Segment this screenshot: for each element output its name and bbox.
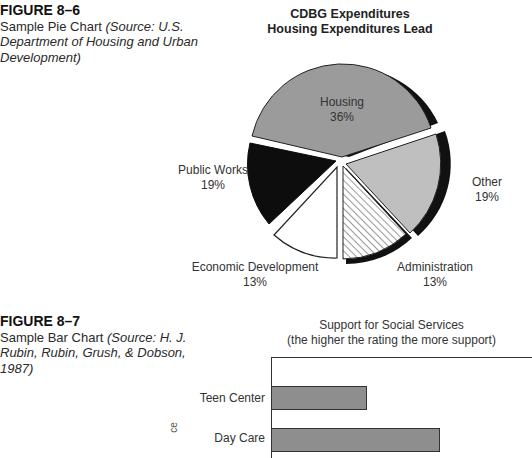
pie-label-other: Other 19% bbox=[462, 175, 512, 205]
bar-day-care bbox=[271, 428, 440, 452]
bar-label-teen-center: Teen Center bbox=[145, 391, 265, 405]
slice-name: Economic Development bbox=[180, 260, 330, 275]
pie-label-administration: Administration 13% bbox=[380, 260, 490, 290]
pie-label-public-works: Public Works 19% bbox=[168, 163, 258, 193]
slice-percent: 19% bbox=[462, 190, 512, 205]
bar-y-axis-label: ce bbox=[168, 422, 179, 433]
bar-label-day-care: Day Care bbox=[145, 431, 265, 445]
bar-chart-title: Support for Social Services (the higher … bbox=[270, 318, 513, 347]
slice-percent: 13% bbox=[380, 275, 490, 290]
pie-label-economic-development: Economic Development 13% bbox=[180, 260, 330, 290]
slice-name: Housing bbox=[312, 95, 372, 110]
pie-label-housing: Housing 36% bbox=[312, 95, 372, 125]
pie-chart bbox=[0, 0, 513, 300]
slice-percent: 36% bbox=[312, 110, 372, 125]
slice-percent: 13% bbox=[180, 275, 330, 290]
bar-title-line2: (the higher the rating the more support) bbox=[270, 333, 513, 348]
figure-number: FIGURE 8–7 bbox=[0, 314, 200, 330]
slice-name: Administration bbox=[380, 260, 490, 275]
slice-percent: 19% bbox=[168, 178, 258, 193]
figure-8-7-caption: FIGURE 8–7 Sample Bar Chart (Source: H. … bbox=[0, 314, 200, 376]
bar-teen-center bbox=[271, 386, 367, 410]
bar-title-line1: Support for Social Services bbox=[270, 318, 513, 333]
figure-caption-text: Sample Bar Chart bbox=[0, 330, 103, 345]
slice-name: Other bbox=[462, 175, 512, 190]
slice-name: Public Works bbox=[168, 163, 258, 178]
